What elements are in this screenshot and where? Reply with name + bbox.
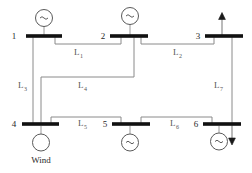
line-6-label: L 6 [170,118,179,130]
bus-1-number: 1 [12,31,17,41]
load-bus-6-arrow-icon [229,124,236,145]
bus-6-number: 6 [194,119,199,129]
line-4-path [41,36,134,124]
line-7-label: L 7 [214,80,223,92]
line-2-path [141,36,214,44]
gen-bus-1 [36,10,53,37]
line-3-label-subscript: 3 [24,86,27,92]
line-6-label-text: L [170,118,176,128]
bus-4-bar [22,122,59,126]
bus-3-number: 3 [196,31,201,41]
line-6-label-subscript: 6 [176,124,179,130]
line-7-label-subscript: 7 [220,86,223,92]
load-bus-3-arrow-icon [219,13,226,37]
gen-bus-4-wind [33,126,50,151]
bus-5-number: 5 [103,119,108,129]
bus-6-bar [203,122,241,126]
gen-bus-6 [211,126,228,150]
line-4-label: L 4 [78,80,87,92]
bus-4-number: 4 [12,119,17,129]
line-5-label: L 5 [78,118,87,130]
bus-2-number: 2 [101,31,106,41]
line-5-path [51,117,121,124]
bus-3-bar [205,34,243,38]
gen-bus-2 [122,8,139,37]
bus-1-bar [26,34,62,38]
bus-2-bar [110,34,148,38]
line-1-label: L 1 [74,47,83,59]
power-system-single-line-diagram: 1 2 3 4 5 6 L 1 L 2 L 3 L 4 L 5 L 6 [0,0,252,173]
line-2-label-text: L [173,47,179,57]
line-6-path [141,117,212,124]
line-2-label-subscript: 2 [179,53,182,59]
bus-5-bar [112,122,150,126]
line-3-label-text: L [18,80,24,90]
line-5-label-text: L [78,118,84,128]
line-4-label-text: L [78,80,84,90]
gen-bus-5 [122,126,139,151]
line-5-label-subscript: 5 [84,124,87,130]
diagram-canvas: 1 2 3 4 5 6 L 1 L 2 L 3 L 4 L 5 L 6 [0,0,252,173]
line-2-label: L 2 [173,47,182,59]
line-3-label: L 3 [18,80,27,92]
line-4-label-subscript: 4 [84,86,87,92]
line-7-label-text: L [214,80,220,90]
line-1-label-text: L [74,47,80,57]
wind-caption: Wind [31,155,51,165]
line-1-label-subscript: 1 [80,53,83,59]
